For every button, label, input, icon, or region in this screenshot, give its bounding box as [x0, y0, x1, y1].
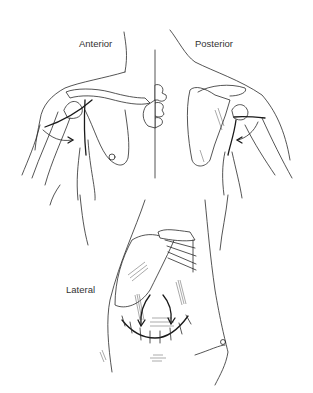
lateral-view [80, 195, 228, 385]
posterior-view [170, 30, 292, 198]
line-drawing [0, 0, 313, 393]
label-posterior: Posterior [195, 39, 233, 49]
label-anterior: Anterior [79, 39, 112, 49]
suture-stitches [122, 315, 191, 343]
anterior-view [22, 32, 150, 205]
spine-midline [143, 50, 166, 178]
anatomical-illustration: Anterior Posterior Lateral [0, 0, 313, 393]
label-lateral: Lateral [66, 285, 95, 295]
